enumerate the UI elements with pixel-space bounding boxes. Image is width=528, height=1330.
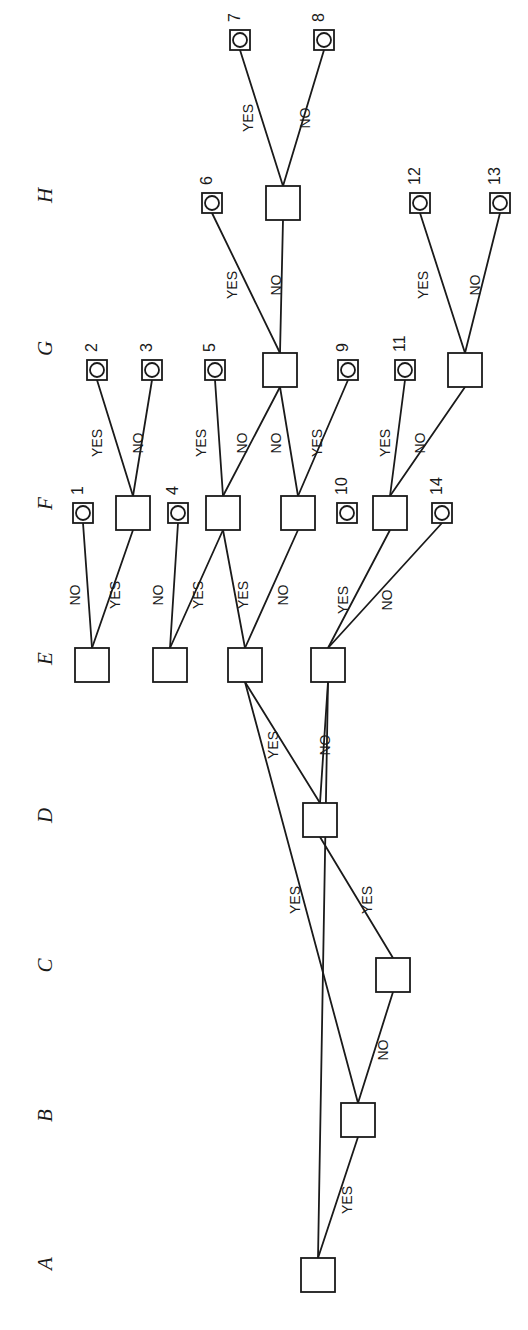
tree-edge [170,523,178,648]
leaf-circle-icon [435,506,449,520]
decision-node-C1[interactable] [376,958,410,992]
column-header-F: F [33,484,58,524]
edge-label-yes: YES [309,429,325,457]
column-header-D: D [33,796,58,836]
decision-tree-diagram: YESNOYESYESYESNONOYESNOYESYESNOYESNOYESN… [0,0,528,1330]
leaf-circle-icon [341,363,355,377]
leaf-circle-icon [90,363,104,377]
decision-node-A1[interactable] [301,1258,335,1292]
leaf-circle-icon [233,33,247,47]
edge-label-no: NO [268,274,284,295]
leaf-circle-icon [205,196,219,210]
column-header-H: H [33,176,58,216]
leaf-circle-icon [493,196,507,210]
edge-labels-group: YESNOYESYESYESNONOYESNOYESYESNOYESNOYESN… [67,104,483,1214]
leaf-label-10: 10 [333,477,350,495]
edges-group [83,50,500,1258]
tree-edge [320,837,393,958]
tree-edge [328,523,442,648]
leaf-label-8: 8 [310,13,327,22]
column-header-B: B [33,1096,58,1136]
decision-node-H1[interactable] [266,186,300,220]
edge-label-yes: YES [89,429,105,457]
edge-label-yes: YES [359,886,375,914]
edge-label-no: NO [467,274,483,295]
leaf-node-13[interactable]: 13 [486,167,510,213]
leaf-label-12: 12 [406,167,423,185]
leaf-node-4[interactable]: 4 [164,486,188,523]
edge-label-yes: YES [240,104,256,132]
edge-label-yes: YES [415,271,431,299]
decision-node-F3[interactable] [281,496,315,530]
leaf-label-4: 4 [164,486,181,495]
decision-node-E3[interactable] [228,648,262,682]
leaf-label-1: 1 [69,486,86,495]
edge-label-yes: YES [265,731,281,759]
edge-label-yes: YES [193,429,209,457]
edge-label-yes: YES [235,581,251,609]
leaf-node-14[interactable]: 14 [428,477,452,523]
leaf-circle-icon [76,506,90,520]
edge-label-yes: YES [335,586,351,614]
decision-node-G1[interactable] [263,353,297,387]
edge-label-no: NO [67,584,83,605]
leaf-node-2[interactable]: 2 [83,343,107,380]
column-header-G: G [33,329,58,369]
leaf-node-7[interactable]: 7 [226,13,250,50]
decision-node-G2[interactable] [448,353,482,387]
leaf-node-10[interactable]: 10 [333,477,357,523]
decision-node-F2[interactable] [206,496,240,530]
edge-label-yes: YES [190,581,206,609]
leaf-node-8[interactable]: 8 [310,13,334,50]
leaf-node-6[interactable]: 6 [198,176,222,213]
decision-node-E2[interactable] [153,648,187,682]
column-header-E: E [33,639,58,679]
leaf-node-5[interactable]: 5 [201,343,225,380]
leaf-label-7: 7 [226,13,243,22]
leaf-circle-icon [208,363,222,377]
edge-label-no: NO [275,584,291,605]
decision-node-B1[interactable] [341,1103,375,1137]
leaf-node-3[interactable]: 3 [138,343,162,380]
leaf-label-5: 5 [201,343,218,352]
leaf-circle-icon [340,506,354,520]
edge-label-yes: YES [287,886,303,914]
edge-label-yes: YES [339,1186,355,1214]
leaf-circle-icon [398,363,412,377]
tree-edge [245,682,320,803]
tree-edge [215,380,223,496]
edge-label-no: NO [268,432,284,453]
leaf-node-11[interactable]: 11 [391,335,415,380]
leaf-circle-icon [145,363,159,377]
leaf-node-1[interactable]: 1 [69,486,93,523]
edge-label-no: NO [375,1039,391,1060]
leaf-circle-icon [171,506,185,520]
decision-node-E1[interactable] [75,648,109,682]
edge-label-no: NO [130,432,146,453]
tree-canvas: YESNOYESYESYESNONOYESNOYESYESNOYESNOYESN… [0,0,528,1330]
edge-label-no: NO [412,432,428,453]
tree-edge [83,523,92,648]
decision-node-F4[interactable] [373,496,407,530]
decision-node-E4[interactable] [311,648,345,682]
leaf-label-11: 11 [391,335,408,352]
edge-label-no: NO [317,734,333,755]
edge-label-no: NO [297,107,313,128]
edge-label-no: NO [379,589,395,610]
leaf-label-13: 13 [486,167,503,185]
edge-label-yes: YES [377,429,393,457]
leaf-label-2: 2 [83,343,100,352]
decision-node-F1[interactable] [116,496,150,530]
leaf-label-14: 14 [428,477,445,495]
column-header-A: A [33,1244,58,1284]
leaf-circle-icon [317,33,331,47]
leaf-node-9[interactable]: 9 [334,343,358,380]
edge-label-no: NO [234,432,250,453]
column-header-C: C [33,946,58,986]
leaf-circle-icon [413,196,427,210]
edge-label-no: NO [150,584,166,605]
edge-label-yes: YES [107,581,123,609]
decision-node-D1[interactable] [303,803,337,837]
leaf-label-3: 3 [138,343,155,352]
leaf-node-12[interactable]: 12 [406,167,430,213]
